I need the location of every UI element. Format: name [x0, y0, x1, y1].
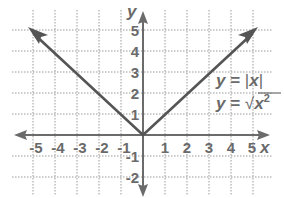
x-tick-label: 1: [161, 139, 169, 156]
y-axis-label: y: [126, 2, 138, 21]
y-tick-label: 2: [131, 85, 139, 102]
x-tick-label: -2: [95, 139, 108, 156]
y-tick-label: -2: [126, 169, 139, 186]
y-tick-label: 3: [131, 64, 139, 81]
x-tick-label: 4: [227, 139, 236, 156]
y-tick-label: 1: [131, 106, 139, 123]
equation-abs-x: y = |x|: [215, 71, 263, 90]
x-tick-label: -5: [29, 139, 42, 156]
equation-sqrt-x-squared: y = √x2: [215, 92, 270, 113]
y-tick-label: -1: [126, 148, 139, 165]
y-tick-label: 4: [131, 43, 140, 60]
y-tick-label: 5: [131, 22, 139, 39]
x-tick-label: 5: [248, 139, 256, 156]
x-tick-label: 3: [205, 139, 213, 156]
absolute-value-graph: y x -5 -4 -3 -2 -1 1 2 3 4 5 5 4 3 2 1 -…: [0, 0, 284, 198]
y-axis: [138, 11, 148, 197]
x-axis-label: x: [259, 138, 271, 157]
x-tick-label: 2: [183, 139, 191, 156]
x-tick-label: -4: [51, 139, 65, 156]
x-tick-label: -3: [73, 139, 86, 156]
y-tick-labels: 5 4 3 2 1 -1 -2: [126, 22, 140, 186]
